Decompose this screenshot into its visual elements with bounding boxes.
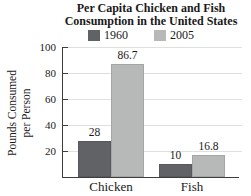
chart-title-line2: Consumption in the United States (53, 15, 249, 28)
y-tick-label-80: 80 (26, 67, 56, 80)
y-axis-line (62, 47, 63, 178)
legend-item-2005: 2005 (154, 29, 194, 41)
x-axis-line (62, 177, 239, 178)
y-tick-40 (63, 125, 68, 126)
y-tick-label-60: 60 (26, 93, 56, 106)
y-tick-100 (63, 47, 68, 48)
gridline-80 (63, 73, 242, 74)
y-tick-60 (63, 99, 68, 100)
y-tick-label-20: 20 (26, 145, 56, 158)
legend-swatch-1960 (88, 30, 100, 41)
bar-chart: Per Capita Chicken and Fish Consumption … (0, 0, 251, 196)
value-label-2005-fish: 16.8 (187, 140, 231, 153)
legend-label-2005: 2005 (170, 29, 194, 41)
legend-label-1960: 1960 (104, 29, 128, 41)
legend: 1960 2005 (46, 29, 236, 41)
category-label-fish: Fish (150, 180, 234, 194)
value-label-2005-chicken: 86.7 (106, 49, 150, 62)
gridline-100 (63, 47, 242, 48)
y-tick-label-100: 100 (26, 41, 56, 54)
legend-swatch-2005 (154, 30, 166, 41)
legend-item-1960: 1960 (88, 29, 128, 41)
bar-1960-fish (159, 164, 192, 177)
category-label-chicken: Chicken (69, 180, 153, 194)
gridline-60 (63, 99, 242, 100)
y-axis-title-line1: Pounds Consumed (5, 57, 19, 169)
bar-1960-chicken (78, 141, 111, 177)
bar-2005-chicken (111, 64, 144, 177)
value-label-1960-chicken: 28 (73, 126, 117, 139)
y-tick-label-40: 40 (26, 119, 56, 132)
y-tick-80 (63, 73, 68, 74)
bar-2005-fish (192, 155, 225, 177)
y-tick-20 (63, 151, 68, 152)
chart-title: Per Capita Chicken and Fish Consumption … (53, 2, 249, 28)
